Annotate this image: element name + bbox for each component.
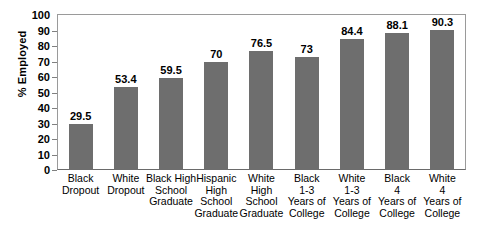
y-tick-label: 30 xyxy=(18,118,50,129)
bar-group[interactable]: 70 xyxy=(194,15,239,170)
bar-chart: % Employed 1009080706050403020100 29.553… xyxy=(0,0,488,230)
y-tick-label: 70 xyxy=(18,56,50,67)
bar-value-label: 84.4 xyxy=(341,26,362,37)
x-category-label-line: Years of xyxy=(414,196,471,208)
bars-container: 29.553.459.57076.57384.488.190.3 xyxy=(58,15,465,170)
bar-group[interactable]: 29.5 xyxy=(58,15,103,170)
bar[interactable] xyxy=(204,62,228,171)
bar[interactable] xyxy=(430,30,454,170)
bar[interactable] xyxy=(159,78,183,170)
x-axis-category-labels: BlackDropoutWhiteDropoutBlack HighSchool… xyxy=(58,173,465,228)
bar-group[interactable]: 88.1 xyxy=(375,15,420,170)
x-category-label-line: College xyxy=(414,208,471,220)
bar-group[interactable]: 59.5 xyxy=(148,15,193,170)
bar-group[interactable]: 84.4 xyxy=(329,15,374,170)
bar-value-label: 76.5 xyxy=(251,38,272,49)
x-category-label-line: White xyxy=(414,173,471,185)
y-tick-label: 40 xyxy=(18,103,50,114)
bar-group[interactable]: 76.5 xyxy=(239,15,284,170)
bar[interactable] xyxy=(69,124,93,170)
bar-value-label: 59.5 xyxy=(160,65,181,76)
y-axis-tick-labels: 1009080706050403020100 xyxy=(18,14,50,170)
bar-value-label: 29.5 xyxy=(70,111,91,122)
bar[interactable] xyxy=(114,87,138,170)
y-tick-label: 10 xyxy=(18,149,50,160)
bar-value-label: 53.4 xyxy=(115,74,136,85)
bar-group[interactable]: 73 xyxy=(284,15,329,170)
y-tick-label: 50 xyxy=(18,87,50,98)
y-tick-label: 20 xyxy=(18,134,50,145)
y-tick-mark xyxy=(52,170,57,171)
bar[interactable] xyxy=(295,57,319,170)
bar[interactable] xyxy=(340,39,364,170)
bar-value-label: 88.1 xyxy=(386,20,407,31)
bar-value-label: 73 xyxy=(301,44,313,55)
y-tick-label: 100 xyxy=(18,10,50,21)
y-tick-label: 60 xyxy=(18,72,50,83)
bar[interactable] xyxy=(385,33,409,170)
bar-value-label: 90.3 xyxy=(432,17,453,28)
bar-group[interactable]: 53.4 xyxy=(103,15,148,170)
bar[interactable] xyxy=(249,51,273,170)
y-tick-label: 80 xyxy=(18,41,50,52)
x-category-label: White4Years ofCollege xyxy=(414,173,471,219)
bar-value-label: 70 xyxy=(210,49,222,60)
y-tick-label: 90 xyxy=(18,25,50,36)
y-tick-label: 0 xyxy=(18,165,50,176)
bar-group[interactable]: 90.3 xyxy=(420,15,465,170)
